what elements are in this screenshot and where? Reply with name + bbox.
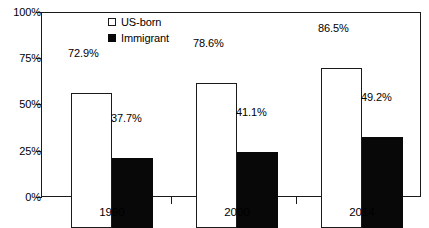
y-tick-mark-100 — [36, 12, 42, 13]
bar-label-immigrant-1990: 37.7% — [111, 113, 142, 124]
bar-label-us-born-2000: 78.6% — [193, 38, 224, 49]
x-tick-label-1990: 1990 — [82, 206, 142, 218]
y-axis: 100% 75% 50% 25% 0% — [0, 0, 41, 228]
bar-us-born-2014 — [321, 68, 362, 228]
y-tick-mark-0 — [36, 197, 42, 198]
bar-label-immigrant-2014: 49.2% — [361, 92, 392, 103]
legend-label-immigrant: Immigrant — [121, 33, 169, 44]
legend-swatch-open-square-icon — [108, 18, 116, 26]
legend-label-us-born: US-born — [121, 17, 161, 28]
bar-chart: 100% 75% 50% 25% 0% US-born Immigrant 72… — [0, 0, 429, 228]
bar-label-immigrant-2000: 41.1% — [236, 107, 267, 118]
x-tick-mark-2 — [296, 197, 297, 204]
legend-swatch-filled-square-icon — [108, 34, 116, 42]
legend: US-born Immigrant — [108, 15, 169, 47]
x-tick-mark-1 — [171, 197, 172, 204]
legend-item-immigrant: Immigrant — [108, 31, 169, 45]
legend-item-us-born: US-born — [108, 15, 169, 29]
bar-label-us-born-1990: 72.9% — [68, 48, 99, 59]
y-tick-mark-25 — [36, 151, 42, 152]
x-tick-label-2014: 2014 — [332, 206, 392, 218]
bar-label-us-born-2014: 86.5% — [318, 23, 349, 34]
y-tick-mark-50 — [36, 104, 42, 105]
x-tick-label-2000: 2000 — [207, 206, 267, 218]
y-tick-mark-75 — [36, 58, 42, 59]
